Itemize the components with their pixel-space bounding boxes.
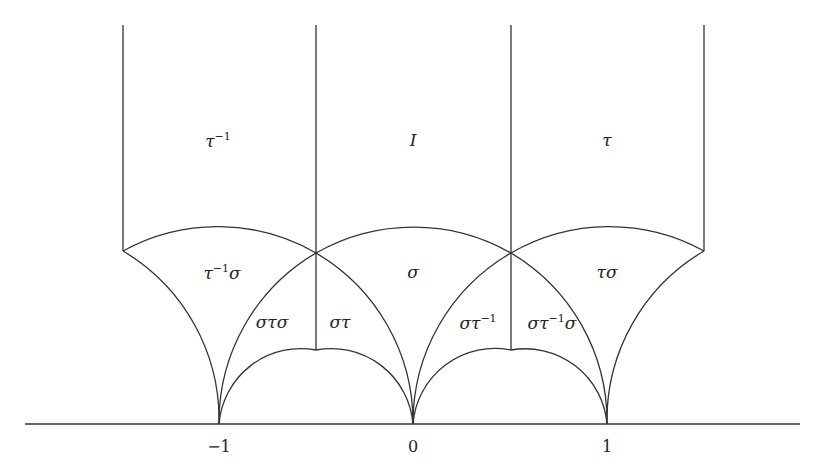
region-label-sigma-tau-inv-sigma: στ−1σ bbox=[528, 312, 577, 333]
tick-label-neg1: −1 bbox=[207, 437, 231, 456]
region-label-sigma-tau-inv: στ−1 bbox=[459, 312, 496, 333]
diagram-canvas: −1 0 1 τ−1 I τ τ−1σ σ τσ στσ στ στ−1 στ−… bbox=[0, 0, 815, 472]
region-label-tau: τ bbox=[602, 130, 611, 150]
region-label-tau-inv-sigma: τ−1σ bbox=[203, 262, 240, 283]
region-label-identity: I bbox=[410, 130, 417, 150]
region-label-tau-inv: τ−1 bbox=[205, 130, 231, 151]
region-label-tau-sigma: τσ bbox=[596, 262, 617, 282]
region-label-sigma: σ bbox=[407, 262, 419, 282]
tiling-lines bbox=[0, 0, 815, 472]
region-label-sigma-tau-sigma: στσ bbox=[256, 312, 289, 332]
tick-label-1: 1 bbox=[602, 437, 612, 456]
tick-label-0: 0 bbox=[408, 437, 418, 456]
region-label-sigma-tau: στ bbox=[329, 312, 350, 332]
